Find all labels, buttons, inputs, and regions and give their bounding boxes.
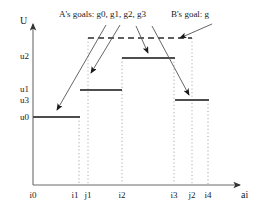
utility-step-chart: A's goals: g0, g1, g2, g3 B's goal: g U … xyxy=(0,0,262,213)
x-tick-label-i0: i0 xyxy=(25,191,41,200)
annotation-b-goal: B's goal: g xyxy=(171,10,209,19)
chart-canvas xyxy=(0,0,262,213)
x-tick-label-j1: j1 xyxy=(80,191,96,200)
x-tick-label-j2: j2 xyxy=(184,191,200,200)
arrow-g0 xyxy=(57,25,106,110)
x-tick-label-i3: i3 xyxy=(166,191,182,200)
y-tick-label-u3: u3 xyxy=(10,96,29,105)
y-tick-label-u1: u1 xyxy=(10,85,29,94)
y-tick-label-u2: u2 xyxy=(10,52,29,61)
x-axis-title: ai xyxy=(241,190,248,200)
arrow-g1 xyxy=(91,25,120,73)
y-axis-title: U xyxy=(20,16,27,26)
x-tick-label-i4: i4 xyxy=(200,191,216,200)
annotation-a-goals: A's goals: g0, g1, g2, g3 xyxy=(59,10,146,19)
arrow-b-goal xyxy=(180,24,212,38)
x-tick-label-i2: i2 xyxy=(114,191,130,200)
arrow-g2 xyxy=(136,26,148,53)
y-tick-label-u0: u0 xyxy=(10,113,29,122)
